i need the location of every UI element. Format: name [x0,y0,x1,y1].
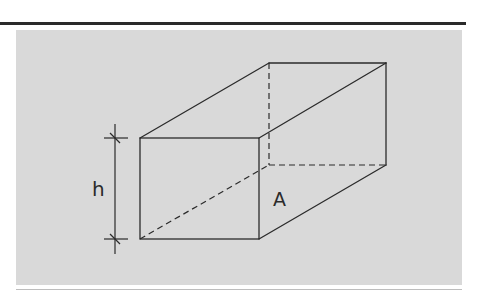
front-face [140,138,259,239]
height-label: h [92,177,105,201]
prism-hidden-edges [140,63,386,239]
hidden-edge-bottom-left-depth [140,165,269,239]
edge-top-left-depth [140,63,269,138]
face-label: A [273,188,286,210]
prism-diagram: h A [0,0,477,299]
height-dimension [104,124,128,254]
edge-top-right-depth [259,63,386,138]
prism-visible-edges [140,63,386,239]
